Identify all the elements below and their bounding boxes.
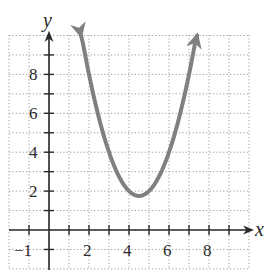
x-tick-label-neg1: −1 <box>14 241 32 260</box>
y-tick-label-4: 4 <box>29 143 38 162</box>
y-axis-label: y <box>41 9 52 32</box>
x-tick-label-4: 4 <box>123 241 132 260</box>
x-tick-label-2: 2 <box>83 241 92 260</box>
parabola-graph: y x −1 2 4 6 8 2 4 6 8 <box>0 0 268 273</box>
y-tick-label-8: 8 <box>29 65 38 84</box>
y-tick-label-6: 6 <box>29 104 38 123</box>
x-tick-label-8: 8 <box>203 241 212 260</box>
x-axis-label: x <box>254 218 264 240</box>
y-tick-label-2: 2 <box>29 182 38 201</box>
chart-canvas: y x −1 2 4 6 8 2 4 6 8 <box>0 0 268 273</box>
x-tick-label-6: 6 <box>163 241 172 260</box>
